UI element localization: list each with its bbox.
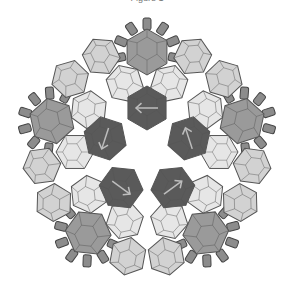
seed-bead [166,35,180,47]
seed-bead [240,87,249,100]
seed-bead [225,237,239,249]
seed-bead [55,237,69,249]
beadwork-pattern-diagram [0,0,294,296]
seed-bead [83,255,91,267]
seed-bead [28,92,42,106]
seed-bead [253,92,267,106]
seed-bead [262,123,276,134]
seed-bead [143,18,151,30]
seed-bead [18,123,32,134]
seed-bead [45,87,54,100]
seed-bead [203,255,211,267]
seed-bead [125,22,138,36]
seed-bead [156,22,169,36]
seed-bead [114,35,128,47]
